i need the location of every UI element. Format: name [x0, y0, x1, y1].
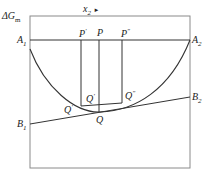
label-a1: A1 — [17, 35, 27, 48]
x-arrow-icon: ► — [93, 7, 99, 13]
line-b1-b2 — [30, 97, 190, 124]
label-p: P — [97, 28, 103, 38]
y-axis-label: ΔGm — [2, 11, 21, 24]
label-b1: B1 — [17, 119, 27, 132]
label-b2: B2 — [192, 92, 202, 105]
label-q: Q — [96, 115, 103, 125]
label-q-prime: Q′ — [64, 104, 73, 115]
plot-frame — [30, 16, 190, 168]
label-p-dprime: P″ — [121, 28, 130, 39]
label-q-dprime: Q″ — [125, 90, 135, 101]
label-q-prime-inner: Q′ — [86, 93, 95, 104]
gibbs-energy-diagram — [0, 0, 210, 180]
label-p-prime: P′ — [79, 28, 87, 39]
x-axis-label: x2 ► — [83, 4, 99, 17]
label-a2: A2 — [192, 35, 202, 48]
